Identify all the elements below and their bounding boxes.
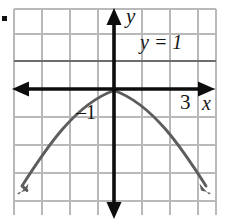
coordinate-plane [0, 0, 225, 223]
graph-figure: y x 3 y = 1 –1 [0, 0, 225, 223]
y-axis-label: y [126, 6, 135, 27]
y-axis-top-arrowhead [107, 8, 122, 25]
y-axis-bottom-arrowhead [107, 202, 122, 219]
y-axis [107, 8, 122, 219]
x-axis-label: x [202, 93, 211, 113]
x-tick-label-3: 3 [180, 92, 191, 113]
y-tick-label-negative-1: –1 [76, 102, 96, 122]
line-equation-label: y = 1 [140, 32, 182, 52]
